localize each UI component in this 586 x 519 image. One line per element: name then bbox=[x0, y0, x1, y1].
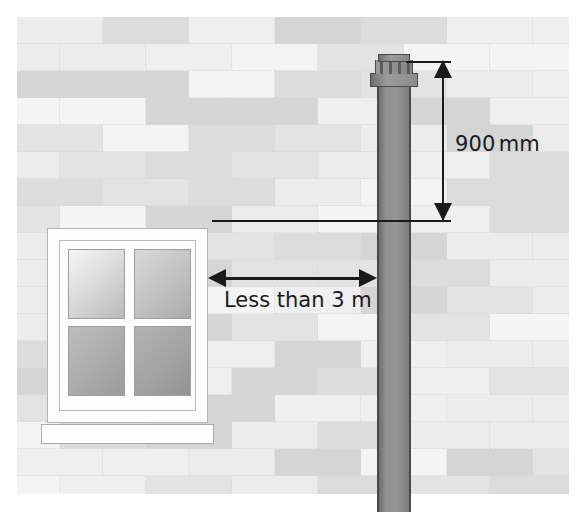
brick bbox=[17, 476, 60, 494]
brick bbox=[60, 98, 146, 125]
brick bbox=[146, 476, 232, 494]
brick bbox=[275, 449, 361, 476]
brick bbox=[275, 71, 361, 98]
brick bbox=[404, 260, 490, 287]
horizontal-dimension-label: Less than 3 m bbox=[224, 288, 372, 312]
brick bbox=[232, 260, 318, 287]
brick bbox=[232, 476, 318, 494]
brick bbox=[146, 44, 232, 71]
brick bbox=[490, 44, 569, 71]
brick-row bbox=[17, 44, 569, 71]
brick bbox=[490, 314, 569, 341]
brick bbox=[490, 206, 569, 233]
brick-row bbox=[17, 71, 569, 98]
brick bbox=[533, 71, 569, 98]
brick bbox=[17, 152, 60, 179]
brick bbox=[232, 44, 318, 71]
vertical-dimension-line bbox=[442, 62, 444, 221]
brick-row bbox=[17, 98, 569, 125]
brick bbox=[447, 233, 533, 260]
brick bbox=[533, 233, 569, 260]
brick bbox=[17, 179, 103, 206]
brick bbox=[275, 179, 361, 206]
brick bbox=[232, 314, 318, 341]
vertical-dimension-label: 900mm bbox=[455, 132, 540, 156]
brick bbox=[232, 368, 318, 395]
dimension-arrow-up-icon bbox=[434, 60, 452, 78]
brick bbox=[533, 179, 569, 206]
brick bbox=[17, 125, 103, 152]
brick bbox=[447, 179, 533, 206]
brick bbox=[447, 395, 533, 422]
brick bbox=[447, 287, 533, 314]
brick bbox=[189, 179, 275, 206]
bottom-reference-line bbox=[212, 220, 451, 222]
brick bbox=[447, 449, 533, 476]
brick bbox=[232, 422, 318, 449]
brick bbox=[103, 17, 189, 44]
brick bbox=[17, 449, 103, 476]
horizontal-dimension-line bbox=[216, 277, 371, 280]
brick bbox=[60, 476, 146, 494]
brick bbox=[189, 449, 275, 476]
brick bbox=[17, 17, 103, 44]
brick bbox=[275, 125, 361, 152]
brick bbox=[533, 287, 569, 314]
brick-row bbox=[17, 179, 569, 206]
brick bbox=[404, 368, 490, 395]
brick-row bbox=[17, 476, 569, 494]
brick bbox=[490, 368, 569, 395]
brick bbox=[17, 71, 103, 98]
brick bbox=[103, 71, 189, 98]
brick bbox=[275, 395, 361, 422]
brick bbox=[232, 98, 318, 125]
brick bbox=[533, 341, 569, 368]
window-pane-bottom-right bbox=[134, 326, 191, 396]
brick bbox=[146, 98, 232, 125]
dimension-arrow-left-icon bbox=[208, 269, 226, 287]
brick bbox=[275, 341, 361, 368]
brick bbox=[60, 152, 146, 179]
brick bbox=[189, 71, 275, 98]
brick bbox=[146, 152, 232, 179]
brick bbox=[447, 17, 533, 44]
brick bbox=[490, 260, 569, 287]
dimension-arrow-right-icon bbox=[359, 269, 377, 287]
brick-row bbox=[17, 449, 569, 476]
brick bbox=[275, 17, 361, 44]
brick bbox=[17, 44, 60, 71]
brick bbox=[490, 422, 569, 449]
brick bbox=[490, 152, 569, 179]
window-pane-top-right bbox=[134, 249, 191, 319]
brick bbox=[361, 17, 447, 44]
vertical-dimension-unit: mm bbox=[499, 132, 540, 156]
brick bbox=[447, 71, 533, 98]
window-inner-frame bbox=[59, 240, 196, 411]
brick bbox=[533, 449, 569, 476]
brick bbox=[189, 17, 275, 44]
brick-row bbox=[17, 17, 569, 44]
brick bbox=[103, 125, 189, 152]
flue-clearance-diagram: 900mm Less than 3 m bbox=[0, 0, 586, 519]
brick bbox=[404, 476, 490, 494]
brick bbox=[275, 233, 361, 260]
brick bbox=[490, 98, 569, 125]
brick bbox=[447, 341, 533, 368]
brick bbox=[17, 98, 60, 125]
vertical-dimension-value: 900 bbox=[455, 132, 496, 156]
brick bbox=[189, 125, 275, 152]
brick bbox=[404, 422, 490, 449]
brick bbox=[533, 395, 569, 422]
window-pane-bottom-left bbox=[68, 326, 125, 396]
brick bbox=[60, 44, 146, 71]
brick bbox=[103, 179, 189, 206]
brick bbox=[232, 152, 318, 179]
dimension-arrow-down-icon bbox=[434, 203, 452, 221]
flue-collar bbox=[370, 73, 418, 87]
flue-pipe bbox=[377, 85, 411, 512]
brick-row bbox=[17, 152, 569, 179]
brick bbox=[404, 98, 490, 125]
brick bbox=[533, 17, 569, 44]
window bbox=[47, 228, 208, 423]
brick bbox=[103, 449, 189, 476]
